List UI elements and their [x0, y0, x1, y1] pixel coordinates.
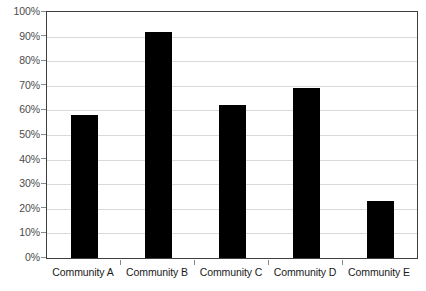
bar	[293, 88, 320, 258]
y-axis-tick-label: 30%	[19, 177, 40, 189]
gridline	[47, 86, 417, 87]
y-axis-tick-label: 80%	[19, 54, 40, 66]
x-axis-category-label: Community D	[268, 266, 342, 278]
bar	[219, 105, 246, 258]
y-axis-tick-label: 0%	[25, 251, 40, 263]
bar	[71, 115, 98, 258]
bar	[367, 201, 394, 258]
y-axis-tick-label: 60%	[19, 103, 40, 115]
y-axis-tick-label: 70%	[19, 79, 40, 91]
y-axis-tick-label: 50%	[19, 128, 40, 140]
x-axis-tick-mark	[120, 260, 121, 265]
y-axis-tick-label: 10%	[19, 226, 40, 238]
x-axis: Community ACommunity BCommunity CCommuni…	[46, 260, 418, 284]
plot-area	[46, 11, 418, 259]
y-axis-tick-label: 40%	[19, 153, 40, 165]
x-axis-category-label: Community E	[342, 266, 416, 278]
x-axis-category-label: Community B	[120, 266, 194, 278]
x-axis-tick-mark	[268, 260, 269, 265]
bar	[145, 32, 172, 258]
y-axis: 0%10%20%30%40%50%60%70%80%90%100%	[0, 11, 46, 259]
bar-chart: 0%10%20%30%40%50%60%70%80%90%100% Commun…	[0, 0, 426, 291]
y-axis-tick-label: 20%	[19, 202, 40, 214]
x-axis-category-label: Community C	[194, 266, 268, 278]
y-axis-tick-label: 100%	[14, 5, 40, 17]
x-axis-category-label: Community A	[46, 266, 120, 278]
gridline	[47, 37, 417, 38]
y-axis-tick-label: 90%	[19, 30, 40, 42]
x-axis-tick-mark	[342, 260, 343, 265]
gridline	[47, 61, 417, 62]
x-axis-tick-mark	[194, 260, 195, 265]
